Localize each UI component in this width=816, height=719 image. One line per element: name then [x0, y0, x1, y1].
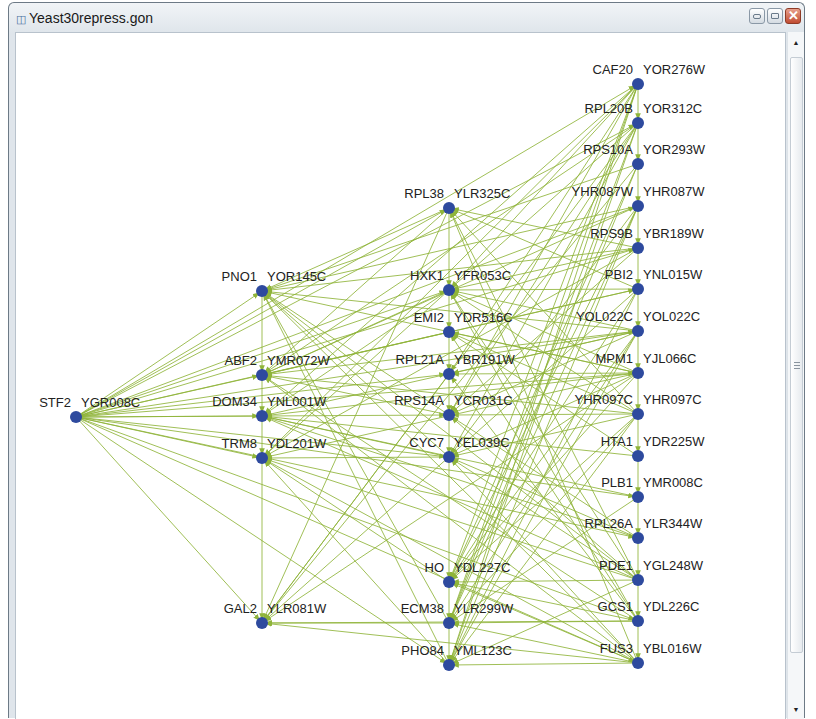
- node-orf-label: YCR031C: [454, 393, 513, 408]
- graph-node[interactable]: PDE1YGL248W: [599, 558, 704, 586]
- node-gene-label: YHR087W: [572, 184, 634, 199]
- node-orf-label: YDR225W: [643, 434, 705, 449]
- node-dot[interactable]: [443, 617, 455, 629]
- node-dot[interactable]: [443, 284, 455, 296]
- node-gene-label: CYC7: [409, 435, 444, 450]
- node-gene-label: RPL38: [404, 186, 444, 201]
- node-orf-label: YLR299W: [454, 601, 514, 616]
- node-gene-label: TRM8: [222, 436, 257, 451]
- node-dot[interactable]: [632, 283, 644, 295]
- node-gene-label: PHO84: [401, 643, 444, 658]
- node-dot[interactable]: [632, 78, 644, 90]
- node-orf-label: YDL201W: [267, 436, 327, 451]
- node-orf-label: YMR072W: [267, 353, 331, 368]
- node-dot[interactable]: [443, 659, 455, 671]
- node-gene-label: MPM1: [595, 351, 633, 366]
- edges-layer: [76, 84, 638, 665]
- node-dot[interactable]: [632, 532, 644, 544]
- node-gene-label: CAF20: [593, 62, 633, 77]
- node-orf-label: YBR191W: [454, 352, 515, 367]
- node-dot[interactable]: [632, 158, 644, 170]
- node-dot[interactable]: [632, 367, 644, 379]
- node-dot[interactable]: [443, 576, 455, 588]
- node-dot[interactable]: [256, 285, 268, 297]
- node-orf-label: YLR081W: [267, 601, 327, 616]
- node-orf-label: YLR325C: [454, 186, 510, 201]
- node-dot[interactable]: [256, 452, 268, 464]
- node-dot[interactable]: [256, 410, 268, 422]
- edge: [76, 417, 638, 538]
- node-orf-label: YOR276W: [643, 62, 706, 77]
- node-gene-label: PDE1: [599, 558, 633, 573]
- node-dot[interactable]: [443, 326, 455, 338]
- graph-node[interactable]: FUS3YBL016W: [600, 641, 702, 669]
- node-dot[interactable]: [632, 408, 644, 420]
- node-dot[interactable]: [632, 574, 644, 586]
- node-gene-label: PNO1: [222, 269, 257, 284]
- node-gene-label: RPS14A: [394, 393, 444, 408]
- node-gene-label: ABF2: [224, 353, 257, 368]
- node-gene-label: YOL022C: [576, 309, 633, 324]
- node-orf-label: YHR087W: [643, 184, 705, 199]
- node-dot[interactable]: [632, 615, 644, 627]
- graph-node[interactable]: PHO84YML123C: [401, 643, 511, 671]
- node-dot[interactable]: [632, 491, 644, 503]
- edge: [449, 289, 638, 290]
- node-dot[interactable]: [70, 411, 82, 423]
- node-orf-label: YLR344W: [643, 516, 703, 531]
- node-gene-label: RPL26A: [585, 516, 634, 531]
- node-dot[interactable]: [632, 200, 644, 212]
- node-dot[interactable]: [256, 369, 268, 381]
- node-dot[interactable]: [256, 617, 268, 629]
- node-dot[interactable]: [443, 451, 455, 463]
- graph-node[interactable]: RPL20BYOR312C: [585, 101, 703, 129]
- node-orf-label: YOR293W: [643, 142, 706, 157]
- node-dot[interactable]: [443, 409, 455, 421]
- node-orf-label: YDL226C: [643, 599, 699, 614]
- graph-node[interactable]: EMI2YDR516C: [414, 310, 513, 338]
- graph-node[interactable]: GCS1YDL226C: [598, 599, 700, 627]
- node-gene-label: ECM38: [401, 601, 444, 616]
- node-gene-label: HTA1: [601, 434, 633, 449]
- node-orf-label: YBR189W: [643, 226, 704, 241]
- node-orf-label: YML123C: [454, 643, 512, 658]
- node-dot[interactable]: [632, 242, 644, 254]
- graph-node[interactable]: RPL26AYLR344W: [585, 516, 703, 544]
- node-gene-label: RPL21A: [396, 352, 445, 367]
- node-orf-label: YOR312C: [643, 101, 702, 116]
- node-gene-label: GAL2: [224, 601, 257, 616]
- node-orf-label: YNL001W: [267, 394, 327, 409]
- node-gene-label: HO: [425, 560, 445, 575]
- edge: [449, 414, 638, 415]
- node-gene-label: HXK1: [410, 268, 444, 283]
- node-gene-label: DOM34: [212, 394, 257, 409]
- node-dot[interactable]: [443, 368, 455, 380]
- node-dot[interactable]: [632, 325, 644, 337]
- edge: [76, 84, 638, 417]
- graph-node[interactable]: PLB1YMR008C: [601, 475, 703, 503]
- graph-node[interactable]: RPS10AYOR293W: [583, 142, 706, 170]
- node-gene-label: FUS3: [600, 641, 633, 656]
- graph-node[interactable]: HOYDL227C: [425, 560, 511, 588]
- graph-node[interactable]: PNO1YOR145C: [222, 269, 327, 297]
- graph-node[interactable]: HXK1YFR053C: [410, 268, 511, 296]
- edge: [262, 208, 449, 375]
- node-orf-label: YHR097C: [643, 392, 702, 407]
- edge: [76, 417, 638, 663]
- node-orf-label: YGR008C: [81, 395, 140, 410]
- graph-node[interactable]: PBI2YNL015W: [605, 267, 703, 295]
- node-orf-label: YOL022C: [643, 309, 700, 324]
- graph-node[interactable]: HTA1YDR225W: [601, 434, 705, 462]
- node-dot[interactable]: [443, 202, 455, 214]
- node-orf-label: YEL039C: [454, 435, 510, 450]
- node-dot[interactable]: [632, 450, 644, 462]
- graph-node[interactable]: CAF20YOR276W: [593, 62, 706, 90]
- graph-node[interactable]: RPS9BYBR189W: [590, 226, 704, 254]
- node-dot[interactable]: [632, 657, 644, 669]
- node-orf-label: YDR516C: [454, 310, 513, 325]
- node-orf-label: YBL016W: [643, 641, 702, 656]
- node-orf-label: YFR053C: [454, 268, 511, 283]
- node-gene-label: YHR097C: [574, 392, 633, 407]
- node-dot[interactable]: [632, 117, 644, 129]
